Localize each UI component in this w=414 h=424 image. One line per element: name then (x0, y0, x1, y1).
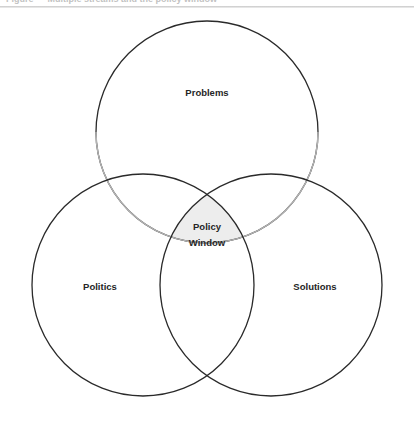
venn-diagram-page: Figure — Multiple streams and the policy… (0, 0, 414, 424)
venn-diagram-figure: Problems Politics Solutions Policy Windo… (0, 8, 414, 424)
label-policy-window-line2: Window (189, 237, 226, 248)
label-problems: Problems (185, 87, 228, 98)
clipped-caption-text: Figure — Multiple streams and the policy… (6, 0, 217, 4)
label-policy-window-line1: Policy (193, 221, 222, 232)
label-solutions: Solutions (293, 281, 336, 292)
label-politics: Politics (83, 281, 117, 292)
